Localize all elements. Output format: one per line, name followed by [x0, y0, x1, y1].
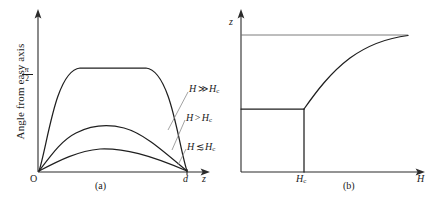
panel-a-plot — [0, 0, 218, 199]
critical-field-subscript: c — [303, 177, 306, 185]
annotation-h-much-greater-hc: H≫Hc — [189, 84, 219, 95]
reference-field-symbol: H — [202, 112, 209, 123]
panel-b-x-axis-label: H — [417, 174, 424, 184]
pi-symbol: π — [20, 66, 34, 74]
panel-a-caption: (a) — [95, 180, 106, 191]
reference-subscript: c — [212, 145, 215, 153]
panel-a-origin-label: O — [30, 174, 37, 184]
annotation-h-lesssim-hc: H≲Hc — [187, 142, 215, 153]
relation-greater: > — [193, 112, 201, 123]
panel-b-y-axis-label: z — [229, 17, 233, 27]
denominator-two: 2 — [20, 75, 34, 83]
panel-b-y-axis — [238, 9, 245, 172]
panel-b-x-axis — [241, 169, 425, 176]
panel-b: z Hc H (b) — [218, 0, 439, 199]
panel-b-plot — [218, 0, 439, 199]
panel-a-y-axis — [35, 9, 42, 172]
curve-h-greater — [39, 126, 187, 171]
figure-root: Angle from easy axis π 2 O d z H≫Hc H>Hc… — [0, 0, 439, 199]
panel-b-caption: (b) — [343, 180, 355, 191]
panel-a-x-axis-label: z — [202, 174, 206, 184]
curve-h-much-greater — [39, 68, 187, 171]
curve-z-of-h — [304, 36, 408, 110]
panel-a: Angle from easy axis π 2 O d z H≫Hc H>Hc… — [0, 0, 218, 199]
panel-a-x-tick-d: d — [183, 174, 188, 184]
panel-a-y-axis-title: Angle from easy axis — [15, 27, 26, 157]
panel-a-y-tick-pi-over-2: π 2 — [20, 66, 34, 83]
panel-b-x-tick-hc: Hc — [296, 174, 306, 185]
leader-h-much-greater — [168, 92, 188, 130]
annotation-h-greater-hc: H>Hc — [186, 113, 212, 124]
reference-subscript: c — [209, 116, 212, 124]
leader-h-greater — [172, 120, 185, 150]
relation-much-greater: ≫ — [196, 83, 209, 94]
relation-lesssim: ≲ — [194, 141, 205, 152]
